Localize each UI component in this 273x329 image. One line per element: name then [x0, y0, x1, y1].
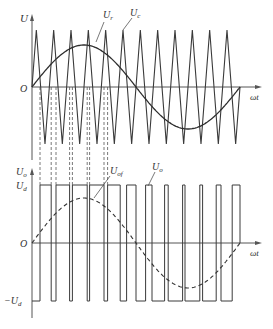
bottom-y-axis-label: Uo [16, 166, 27, 179]
bottom-x-axis-arrow [255, 241, 262, 245]
top-origin-label: O [20, 83, 27, 94]
top-plot [30, 14, 262, 185]
fundamental-label: Uof [110, 165, 124, 178]
top-y-axis-label: U [20, 12, 29, 24]
uo-leader-line [148, 172, 155, 186]
bottom-x-axis-label: ωt [250, 248, 259, 258]
bottom-origin-label: O [20, 238, 27, 249]
output-label: Uo [152, 161, 163, 174]
pos-level-label: Ud [16, 180, 27, 193]
bottom-plot [30, 168, 262, 318]
ur-leader-line [96, 22, 104, 42]
sine-label: Ur [103, 9, 113, 22]
top-y-axis-arrow [30, 14, 34, 21]
uc-leader-line [123, 18, 132, 30]
top-x-axis-label: ωt [250, 92, 259, 102]
bottom-y-axis-arrow [30, 168, 34, 175]
neg-level-label: −Ud [4, 295, 22, 308]
spwm-diagram: U O ωt Ur Uc Uo Ud O −Ud ωt Uof Uo [0, 0, 273, 329]
top-x-axis-arrow [255, 85, 262, 89]
